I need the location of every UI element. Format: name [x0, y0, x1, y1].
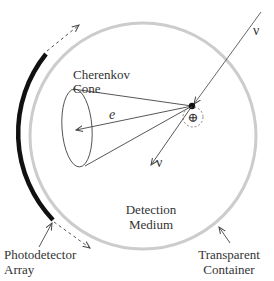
electron-label: e [109, 107, 115, 122]
detector-extension-arrow-bottom [54, 222, 90, 248]
incoming-neutrino-label: ν [253, 23, 259, 38]
nucleus-symbol: ⊕ [188, 110, 199, 125]
cherenkov-cone-label-line2: Cone [73, 81, 101, 96]
detection-medium-label-line1: Detection [126, 202, 177, 217]
cherenkov-cone-base [59, 88, 94, 168]
transparent-container-label-line2: Container [203, 262, 255, 277]
cherenkov-cone-label-line1: Cherenkov [73, 67, 131, 82]
cherenkov-detector-diagram: ν e ν ⊕ Cherenkov Cone Detection Medium … [0, 0, 274, 281]
cone-edge-bottom [85, 106, 192, 166]
interaction-point [189, 103, 195, 109]
photodetector-array-label-line1: Photodetector [4, 247, 77, 262]
container-pointer-arrow [219, 227, 230, 243]
transparent-container-label-line1: Transparent [198, 247, 260, 262]
outgoing-neutrino-label: ν [156, 155, 162, 170]
photodetector-pointer-arrow [39, 223, 52, 247]
electron-track [76, 106, 192, 130]
photodetector-array-label-line2: Array [4, 262, 35, 277]
incoming-neutrino-track [194, 12, 261, 104]
detection-medium-label-line2: Medium [129, 217, 173, 232]
